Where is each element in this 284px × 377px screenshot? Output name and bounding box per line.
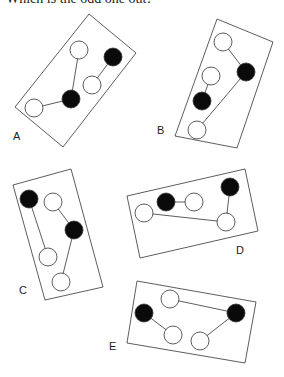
- option-label: E: [109, 340, 116, 352]
- empty-circle: [25, 99, 43, 117]
- filled-circle: [227, 304, 245, 322]
- empty-circle: [44, 193, 62, 211]
- option-b[interactable]: B: [157, 19, 273, 148]
- filled-circle: [65, 221, 83, 239]
- option-d[interactable]: D: [127, 169, 258, 258]
- option-label: B: [157, 124, 164, 136]
- option-e[interactable]: E: [109, 281, 256, 363]
- filled-circle: [135, 304, 153, 322]
- option-label: D: [236, 244, 244, 256]
- panel-frame: [15, 14, 136, 147]
- filled-circle: [157, 193, 175, 211]
- empty-circle: [217, 213, 235, 231]
- filled-circle: [62, 90, 80, 108]
- empty-circle: [39, 248, 57, 266]
- filled-circle: [193, 92, 211, 110]
- filled-circle: [104, 48, 122, 66]
- empty-circle: [70, 41, 88, 59]
- odd-one-out-diagram: ABCDE: [0, 0, 284, 377]
- filled-circle: [237, 63, 255, 81]
- option-label: A: [13, 130, 21, 142]
- connector-line: [144, 213, 226, 222]
- connector-line: [170, 299, 236, 313]
- empty-circle: [52, 273, 70, 291]
- option-a[interactable]: A: [13, 14, 136, 147]
- empty-circle: [164, 326, 182, 344]
- empty-circle: [191, 332, 209, 350]
- empty-circle: [214, 33, 232, 51]
- empty-circle: [161, 290, 179, 308]
- filled-circle: [20, 190, 38, 208]
- option-label: C: [19, 284, 27, 296]
- empty-circle: [188, 121, 206, 139]
- empty-circle: [185, 193, 203, 211]
- option-c[interactable]: C: [13, 169, 103, 300]
- filled-circle: [221, 178, 239, 196]
- empty-circle: [135, 204, 153, 222]
- empty-circle: [83, 76, 101, 94]
- empty-circle: [202, 67, 220, 85]
